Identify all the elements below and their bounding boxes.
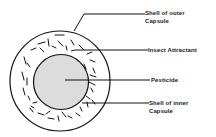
- label-line-1: Insect Attractant: [148, 46, 197, 54]
- label-shell-of-inner-capsule: Shell of inner Capsule: [149, 99, 188, 115]
- label-shell-of-outer-capsule: Shell of outer Capsule: [145, 9, 185, 25]
- label-line-1: Shell of inner: [149, 99, 188, 107]
- label-line-1: Shell of outer: [145, 9, 185, 17]
- inner-capsule-pesticide: [34, 55, 89, 110]
- label-line-1: Pesticide: [151, 76, 178, 84]
- label-line-2: Capsule: [145, 17, 185, 25]
- label-insect-attractant: Insect Attractant: [148, 46, 197, 54]
- leader-line-shell-outer: [74, 14, 145, 31]
- label-line-2: Capsule: [149, 107, 188, 115]
- label-pesticide: Pesticide: [151, 76, 178, 84]
